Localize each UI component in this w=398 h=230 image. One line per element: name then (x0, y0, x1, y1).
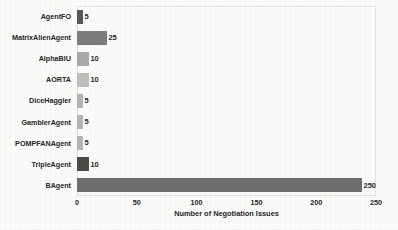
y-axis-category-label: TripleAgent (0, 154, 74, 175)
bar-row: 10 (77, 154, 376, 175)
bar-row: 25 (77, 27, 376, 48)
bar-value-label: 5 (84, 118, 88, 126)
bar-value-label: 10 (90, 76, 98, 84)
bar (77, 31, 107, 45)
bar-row: 10 (77, 48, 376, 69)
bar-value-label: 250 (363, 182, 376, 190)
y-axis-category-label: POMPFANAgent (0, 133, 74, 154)
y-axis-category-label: BAgent (0, 175, 74, 196)
y-axis-category-label: AlphaBIU (0, 48, 74, 69)
x-axis-tick-label: 100 (191, 198, 203, 207)
bar (77, 73, 89, 87)
x-axis-title: Number of Negotiation Issues (77, 209, 376, 218)
x-axis-tick-label: 50 (133, 198, 141, 207)
x-axis-tick-label: 200 (310, 198, 322, 207)
bar (77, 94, 83, 108)
x-axis-tick-label: 0 (75, 198, 79, 207)
x-axis-tick-label: 250 (370, 198, 382, 207)
bars-container: 525101055510250 (77, 6, 376, 196)
y-axis-category-label: AgentFO (0, 6, 74, 27)
y-axis-category-label: GamblerAgent (0, 112, 74, 133)
bar-value-label: 5 (84, 97, 88, 105)
bar (77, 115, 83, 129)
bar-value-label: 10 (90, 161, 98, 169)
bar (77, 10, 83, 24)
y-axis-category-label: MatrixAlienAgent (0, 27, 74, 48)
bar-row: 10 (77, 69, 376, 90)
bar-chart-figure: AgentFOMatrixAlienAgentAlphaBIUAORTADice… (0, 0, 398, 230)
bar-row: 250 (77, 175, 376, 196)
bar-value-label: 5 (84, 13, 88, 21)
x-axis-tick-label: 150 (250, 198, 262, 207)
bar (77, 136, 83, 150)
bar (77, 178, 362, 192)
y-axis-category-labels: AgentFOMatrixAlienAgentAlphaBIUAORTADice… (0, 6, 74, 196)
bar-value-label: 10 (90, 55, 98, 63)
bar (77, 52, 89, 66)
y-axis-category-label: AORTA (0, 69, 74, 90)
bar-value-label: 25 (108, 34, 116, 42)
bar-row: 5 (77, 133, 376, 154)
bar-row: 5 (77, 112, 376, 133)
bar (77, 157, 89, 171)
bar-value-label: 5 (84, 139, 88, 147)
bar-row: 5 (77, 90, 376, 111)
y-axis-category-label: DiceHaggler (0, 90, 74, 111)
bar-row: 5 (77, 6, 376, 27)
